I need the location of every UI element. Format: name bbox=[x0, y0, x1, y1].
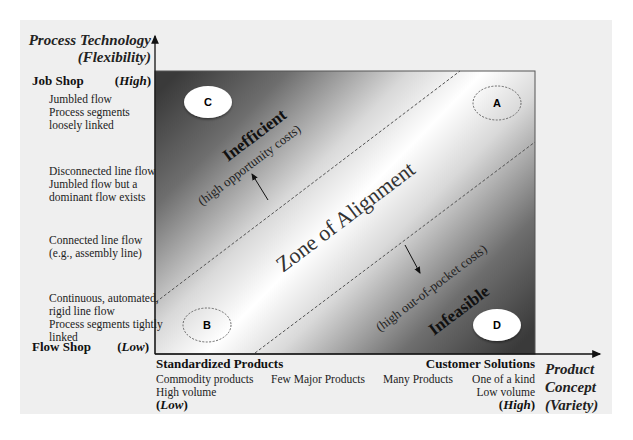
x-stage-2: Few Major Products bbox=[271, 373, 365, 386]
svg-text:B: B bbox=[203, 319, 211, 331]
job-shop-label: Job Shop bbox=[32, 73, 84, 89]
point-c: C bbox=[184, 86, 232, 118]
x-stage-3: Many Products bbox=[383, 373, 453, 386]
y-stage-4: Continuous, automated, rigid line flow P… bbox=[49, 292, 163, 344]
x-axis-title-line2: Concept bbox=[545, 378, 598, 396]
y-high-label: (High) bbox=[115, 73, 151, 89]
y-stage-2: Disconnected line flow Jumbled flow but … bbox=[49, 165, 156, 204]
y-stage-1: Jumbled flow Process segments loosely li… bbox=[49, 93, 130, 132]
x-stage-1: Commodity products High volume bbox=[156, 373, 253, 399]
y-low-label: (Low) bbox=[117, 339, 149, 355]
point-d: D bbox=[473, 309, 521, 341]
x-low-label: (Low) bbox=[156, 397, 188, 413]
y-axis-title-line2: (Flexibility) bbox=[29, 49, 151, 66]
standardized-products-label: Standardized Products bbox=[156, 356, 283, 372]
x-stage-4: One of a kind Low volume bbox=[472, 373, 535, 399]
flow-shop-label: Flow Shop bbox=[32, 339, 91, 355]
customer-solutions-label: Customer Solutions bbox=[426, 356, 535, 372]
svg-text:C: C bbox=[204, 96, 212, 108]
svg-text:D: D bbox=[493, 319, 501, 331]
x-axis-title-line1: Product bbox=[545, 360, 598, 378]
x-axis-title: Product Concept (Variety) bbox=[545, 360, 598, 414]
x-axis-title-line3: (Variety) bbox=[545, 396, 598, 414]
x-high-label: (High) bbox=[499, 397, 535, 413]
y-axis-title-line1: Process Technology bbox=[29, 32, 151, 49]
svg-text:A: A bbox=[493, 97, 501, 109]
y-axis-title: Process Technology (Flexibility) bbox=[29, 32, 151, 66]
y-stage-3: Connected line flow (e.g., assembly line… bbox=[49, 234, 142, 260]
